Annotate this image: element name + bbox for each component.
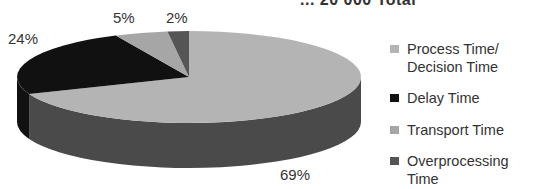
legend-item-overprocessing: Overprocessing Time <box>390 152 509 188</box>
legend-marker-transport-icon <box>390 126 399 134</box>
legend-label: Overprocessing Time <box>407 152 509 188</box>
legend-label: Delay Time <box>407 89 480 107</box>
label-process-pct: 69% <box>280 166 310 183</box>
legend-label: Process Time/ Decision Time <box>407 40 499 76</box>
pie-chart-3d <box>0 0 380 189</box>
legend-label: Transport Time <box>407 121 504 139</box>
label-delay-pct: 24% <box>8 30 38 47</box>
label-transport-pct: 5% <box>113 9 135 26</box>
legend-marker-overprocessing-icon <box>390 157 399 165</box>
legend-item-transport: Transport Time <box>390 121 504 139</box>
legend-marker-delay-icon <box>390 94 399 102</box>
label-overprocessing-pct: 2% <box>166 9 188 26</box>
legend-item-process: Process Time/ Decision Time <box>390 40 499 76</box>
legend-marker-process-icon <box>390 45 399 53</box>
legend-item-delay: Delay Time <box>390 89 480 107</box>
